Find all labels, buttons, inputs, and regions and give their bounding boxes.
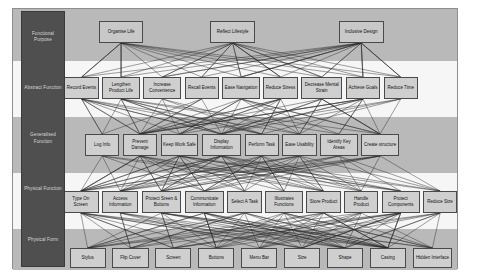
node-increase-convenience[interactable]: Increase Convenience [143,77,181,99]
node-illustrates-functions[interactable]: Illustrates Functions [265,191,303,213]
node-buttons[interactable]: Buttons [198,248,234,268]
level-label-abstract-function: Abstract Function [22,63,64,114]
node-access-information[interactable]: Access Information [102,191,138,213]
node-handle-product[interactable]: Handle Product [344,191,378,213]
node-casing[interactable]: Casing [370,248,406,268]
node-ease-usability[interactable]: Ease Usability [282,134,316,156]
node-communicate-information[interactable]: Communicate Information [185,191,224,213]
level-label-physical-form: Physical Form [22,215,64,266]
node-organise-life[interactable]: Organise Life [99,21,144,43]
node-type-on-screen[interactable]: Type On Screen [63,191,99,213]
diagram-canvas: Organise LifeReflect LifestyleInclusive … [0,0,481,279]
node-log-info[interactable]: Log Info [85,134,119,156]
level-label-column: Functional PurposeAbstract FunctionGener… [21,11,65,267]
node-reduce-stress[interactable]: Reduce Stress [263,77,297,99]
node-screen[interactable]: Screen [155,248,191,268]
node-ease-navigation[interactable]: Ease Navigation [222,77,260,99]
diagram-frame: Organise LifeReflect LifestyleInclusive … [12,8,458,269]
node-record-events[interactable]: Record Events [64,77,98,99]
node-menu-bar[interactable]: Menu Bar [241,248,277,268]
node-lengthen-product-life[interactable]: Lengthen Product Life [102,77,140,99]
node-shape[interactable]: Shape [327,248,363,268]
level-label-generalised-function: Generalised Function [22,114,64,165]
node-reduce-size[interactable]: Reduce Size [423,191,457,213]
node-protect-sreen-buttons[interactable]: Protect Sreen & Buttons [142,191,181,213]
level-label-physical-function: Physical Function [22,164,64,215]
node-hidden-interface[interactable]: Hidden Interface [413,248,452,268]
node-create-structure[interactable]: Create structure [361,134,399,156]
node-reduce-time[interactable]: Reduce Time [384,77,418,99]
node-select-a-task[interactable]: Select A Task [227,191,261,213]
node-store-product[interactable]: Store Product [306,191,340,213]
node-flip-cover[interactable]: Flip Cover [112,248,148,268]
node-achieve-goals[interactable]: Achieve Goals [346,77,380,99]
node-reflect-lifestyle[interactable]: Reflect Lifestyle [210,21,255,43]
node-stylus[interactable]: Stylus [70,248,106,268]
node-inclusive-design[interactable]: Inclusive Design [339,21,384,43]
level-label-functional-purpose: Functional Purpose [22,12,64,63]
node-decrease-mental-strain[interactable]: Decrease Mental Strain [301,77,342,99]
node-perform-task[interactable]: Perform Task [245,134,279,156]
node-display-information[interactable]: Display Information [202,134,241,156]
node-identify-key-areas[interactable]: Identify Key Areas [320,134,358,156]
node-protect-components[interactable]: Protect Components [382,191,420,213]
node-keep-work-safe[interactable]: Keep Work Safe [161,134,199,156]
node-prevent-damage[interactable]: Prevent Damage [123,134,157,156]
node-recall-events[interactable]: Recall Events [185,77,219,99]
node-size[interactable]: Size [284,248,320,268]
